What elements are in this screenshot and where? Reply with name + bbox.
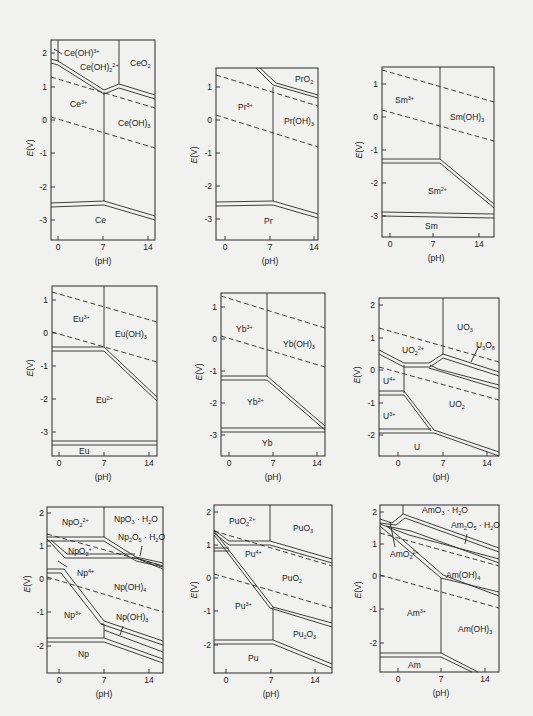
y-axis: 2 1 0 -1 -2 E(V) [352, 300, 383, 440]
region-label: Am3+ [407, 608, 426, 618]
region-label: PuO3 [293, 523, 313, 534]
x-tick-label: 7 [101, 242, 106, 252]
region-labels: Yb3+ Yb(OH)3 Yb2+ Yb [236, 324, 315, 448]
region-label: Np(OH)3 [116, 612, 148, 623]
x-tick-label: 14 [474, 239, 484, 249]
region-label: PuO22+ [229, 516, 255, 527]
region-label: Eu3+ [73, 314, 90, 324]
x-axis-label: (pH) [433, 472, 450, 482]
region-label: Np(OH)4 [114, 582, 146, 593]
y-tick-label: 2 [206, 507, 211, 517]
panel-pu: 2 1 0 -1 -2 E(V) 0 7 14 (pH) [189, 505, 332, 699]
x-tick-label: 7 [102, 458, 107, 468]
region-label: Yb3+ [236, 324, 253, 334]
x-tick-label: 0 [56, 242, 61, 252]
y-tick-label: 2 [370, 300, 375, 310]
y-tick-label: 0 [372, 571, 377, 581]
y-tick-label: 2 [372, 507, 377, 517]
y-tick-label: -3 [40, 427, 48, 437]
y-tick-label: -1 [367, 398, 375, 408]
x-tick-label: 7 [268, 242, 273, 252]
y-tick-label: 0 [39, 574, 44, 584]
panel-yb: 1 0 -1 -2 -3 E(V) 0 7 14 (pH) Yb3+ Yb(OH… [194, 293, 325, 482]
plot-frame [52, 286, 157, 456]
region-label: Np4+ [77, 568, 94, 578]
region-label: Ce [95, 215, 106, 225]
y-tick-label: -2 [203, 640, 211, 650]
region-label: Pr3+ [238, 102, 253, 112]
y-axis: 1 0 -1 -2 -3 E(V) [25, 295, 56, 437]
x-axis-label: (pH) [96, 689, 113, 699]
x-tick-label: 0 [388, 239, 393, 249]
region-label: Pu [248, 653, 259, 663]
plot-frame [214, 505, 332, 673]
boundary-lines [47, 507, 163, 663]
boundary-lines [52, 286, 157, 445]
region-label: CeO2 [130, 58, 151, 69]
y-tick-label: -1 [209, 366, 217, 376]
y-tick-label: 1 [39, 541, 44, 551]
region-label: Pu3+ [235, 601, 252, 611]
y-tick-label: 0 [43, 328, 48, 338]
x-tick-label: 14 [144, 458, 154, 468]
region-label: Am(OH)3 [458, 624, 492, 635]
y-tick-label: 0 [370, 365, 375, 375]
region-label: U [414, 442, 420, 452]
y-tick-label: 2 [42, 48, 47, 58]
region-label: Sm [425, 221, 438, 231]
y-axis-label: E(V) [25, 359, 35, 376]
region-label: Pr(OH)3 [284, 116, 314, 127]
region-label: AmO3 · H2O [422, 505, 468, 516]
y-tick-label: -1 [39, 148, 47, 158]
y-tick-label: -1 [204, 148, 212, 158]
y-axis-label: E(V) [25, 139, 35, 156]
x-tick-label: 7 [271, 458, 276, 468]
y-tick-label: 0 [373, 112, 378, 122]
region-label: Pu4+ [245, 549, 262, 559]
y-tick-label: -2 [370, 178, 378, 188]
region-label: Sm3+ [395, 95, 414, 105]
y-axis: 1 0 -1 -2 -3 E(V) [194, 302, 225, 440]
y-axis-label: E(V) [189, 581, 199, 598]
y-axis: 1 0 -1 -2 -3 E(V) [354, 79, 386, 221]
region-labels: UO3 UO22+ U3O8 U4+ U3+ UO2 U [383, 322, 495, 452]
x-tick-label: 7 [439, 674, 444, 684]
x-tick-label: 0 [227, 458, 232, 468]
y-tick-label: -2 [204, 181, 212, 191]
y-axis-label: E(V) [354, 141, 364, 158]
y-axis-label: E(V) [22, 575, 32, 592]
panel-sm: 1 0 -1 -2 -3 E(V) 0 7 14 (pH) Sm3+ Sm(OH… [354, 67, 494, 263]
boundary-lines [380, 505, 499, 672]
x-tick-label: 0 [57, 675, 62, 685]
region-label: Ce(OH)3 [118, 118, 150, 129]
region-label: Sm(OH)3 [450, 112, 484, 123]
region-label: Ce(OH)3+ [64, 48, 100, 58]
x-tick-label: 0 [223, 242, 228, 252]
y-tick-label: 0 [207, 115, 212, 125]
x-tick-label: 0 [57, 458, 62, 468]
y-tick-label: -2 [367, 430, 375, 440]
panel-am: 2 1 0 -1 -2 E(V) 0 7 14 (pH) [353, 505, 500, 698]
y-tick-label: -1 [370, 145, 378, 155]
y-tick-label: -1 [40, 361, 48, 371]
x-tick-label: 14 [143, 242, 153, 252]
x-axis-label: (pH) [95, 256, 112, 266]
y-tick-label: -3 [209, 430, 217, 440]
x-tick-label: 14 [144, 675, 154, 685]
y-tick-label: -2 [369, 638, 377, 648]
y-tick-label: 0 [206, 573, 211, 583]
y-tick-label: 0 [212, 334, 217, 344]
boundary-lines [221, 293, 325, 432]
region-label: Np [78, 649, 89, 659]
region-label: NpO2+ [68, 546, 92, 557]
y-tick-label: -1 [36, 607, 44, 617]
region-label: Am(OH)4 [446, 570, 480, 581]
y-tick-label: 1 [206, 540, 211, 550]
plot-frame [382, 67, 494, 237]
region-label: Eu(OH)3 [115, 329, 147, 340]
x-axis-label: (pH) [262, 256, 279, 266]
y-axis: 1 0 -1 -2 -3 E(V) [189, 82, 220, 224]
region-label: Eu2+ [96, 395, 113, 405]
region-labels: Ce(OH)3+ Ce(OH)22+ CeO2 Ce3+ Ce(OH)3 Ce [64, 48, 151, 225]
x-tick-label: 14 [309, 242, 319, 252]
